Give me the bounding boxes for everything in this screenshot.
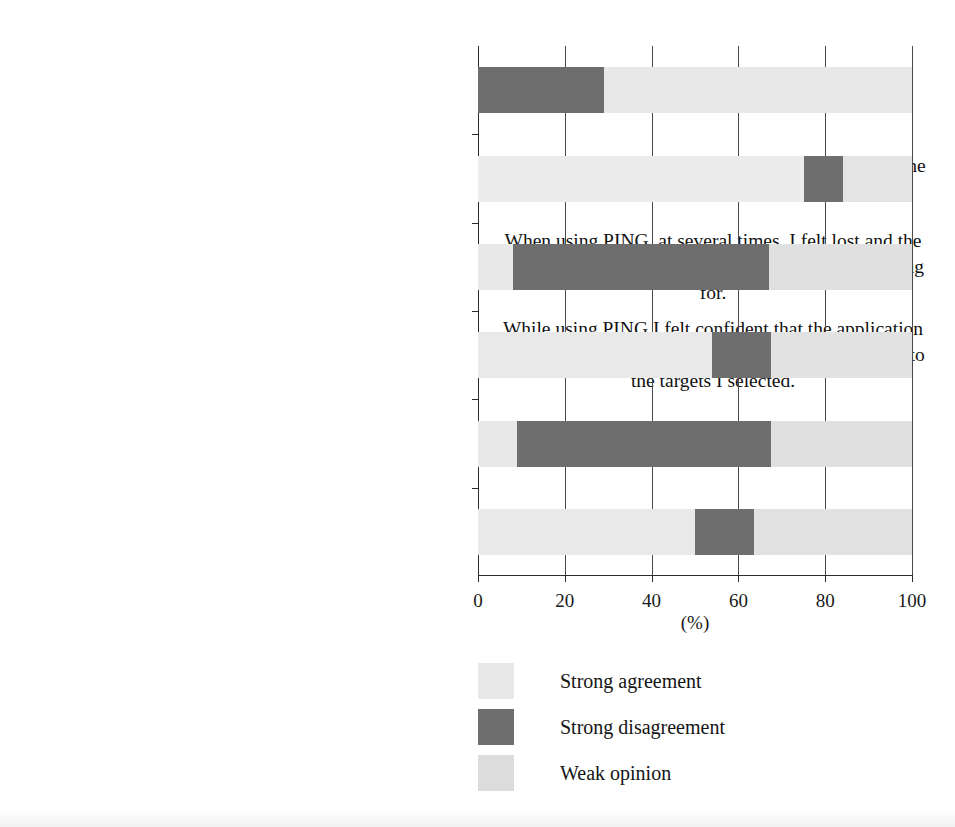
x-tick-label: 20 — [530, 590, 600, 612]
legend-item[interactable]: Weak opinion — [478, 750, 725, 796]
x-tick-label: 40 — [617, 590, 687, 612]
y-tickmark — [472, 311, 479, 312]
plot-area: 020406080100 — [478, 46, 912, 576]
bar-segment — [843, 156, 912, 202]
bar-segment — [478, 332, 712, 378]
scan-edge-artifact — [0, 809, 955, 827]
bar-segment — [478, 244, 513, 290]
y-tickmark — [472, 399, 479, 400]
x-tick-label: 100 — [877, 590, 947, 612]
bar-segment — [804, 156, 843, 202]
bar-segment — [712, 332, 771, 378]
x-tick-label: 0 — [443, 590, 513, 612]
bar-segment — [513, 244, 769, 290]
x-tickmark — [912, 575, 913, 582]
y-tickmark — [472, 223, 479, 224]
y-tickmark — [472, 134, 479, 135]
legend-label: Strong agreement — [560, 670, 702, 693]
legend-label: Strong disagreement — [560, 716, 725, 739]
bar-row — [478, 421, 912, 467]
legend-item[interactable]: Strong agreement — [478, 658, 725, 704]
bar-row — [478, 509, 912, 555]
x-tickmark — [738, 575, 739, 582]
x-tick-label: 60 — [703, 590, 773, 612]
legend-item[interactable]: Strong disagreement — [478, 704, 725, 750]
bar-row — [478, 332, 912, 378]
x-tick-label: 80 — [790, 590, 860, 612]
legend-label: Weak opinion — [560, 762, 671, 785]
bar-segment — [754, 509, 912, 555]
x-axis-line — [478, 575, 912, 576]
x-tickmark — [565, 575, 566, 582]
bar-segment — [604, 67, 912, 113]
bar-segment — [478, 67, 604, 113]
gridline — [652, 46, 653, 576]
bar-segment — [771, 332, 912, 378]
gridline — [912, 46, 913, 576]
bar-row — [478, 67, 912, 113]
legend: Strong agreementStrong disagreementWeak … — [478, 658, 725, 796]
gridline — [825, 46, 826, 576]
legend-swatch — [478, 755, 514, 791]
legend-swatch — [478, 663, 514, 699]
bar-segment — [478, 421, 517, 467]
bar-row — [478, 244, 912, 290]
bar-segment — [517, 421, 771, 467]
x-tickmark — [652, 575, 653, 582]
stacked-bar-chart: The sound of feedback from the PING appl… — [0, 0, 955, 827]
bar-segment — [478, 509, 695, 555]
legend-swatch — [478, 709, 514, 745]
x-tickmark — [478, 575, 479, 582]
x-tickmark — [825, 575, 826, 582]
bar-segment — [695, 509, 754, 555]
bar-row — [478, 156, 912, 202]
x-axis-unit-label: (%) — [478, 612, 912, 634]
bar-segment — [478, 156, 804, 202]
bar-segment — [771, 421, 912, 467]
gridline — [738, 46, 739, 576]
y-tickmark — [472, 488, 479, 489]
gridline — [565, 46, 566, 576]
bar-segment — [769, 244, 912, 290]
